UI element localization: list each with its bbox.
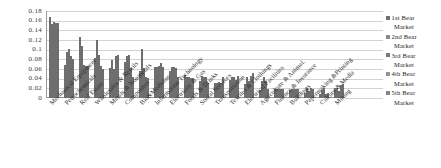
legend-label-line1: 4th Bear (392, 69, 416, 78)
legend-swatch-icon (386, 35, 390, 39)
y-axis-tick-label: 0.04 (2, 75, 42, 82)
x-axis-labels: Mechanical EquipmentPetrochemicalsReal E… (0, 99, 441, 168)
y-axis-tick-label: 0.12 (2, 37, 42, 44)
bar-chart: 0.180.160.140.120.10.080.060.040.020 Mec… (0, 0, 441, 168)
legend-label-line2: Market (386, 22, 441, 31)
bar-group (47, 11, 62, 98)
legend-swatch-icon (386, 91, 390, 95)
legend-item[interactable]: 1st BearMarket (386, 13, 441, 32)
bar (57, 23, 59, 98)
y-axis-tick-label: 0.18 (2, 8, 42, 15)
y-axis-tick-label: 0.16 (2, 17, 42, 24)
legend-item[interactable]: 4th BearMarket (386, 69, 441, 88)
legend-swatch-icon (386, 16, 390, 20)
legend-label-line2: Market (386, 98, 441, 107)
legend-swatch-icon (386, 53, 390, 57)
legend-item[interactable]: 2nd BearMarket (386, 32, 441, 51)
legend-label-line2: Market (386, 60, 441, 69)
legend-label-line1: 2nd Bear (392, 32, 417, 41)
legend-item[interactable]: 3rd BearMarket (386, 51, 441, 70)
legend-swatch-icon (386, 72, 390, 76)
legend-label-line1: 5th Bear (392, 88, 416, 97)
bars-layer (47, 11, 345, 98)
y-axis-tick-label: 0.08 (2, 56, 42, 63)
legend-label-line1: 3rd Bear (392, 51, 416, 60)
chart-legend: 1st BearMarket2nd BearMarket3rd BearMark… (386, 13, 441, 107)
y-axis-tick-label: 0.02 (2, 85, 42, 92)
y-axis-tick-label: 0.1 (2, 46, 42, 53)
legend-item[interactable]: 5th BearMarket (386, 88, 441, 107)
legend-label-line2: Market (386, 41, 441, 50)
y-axis-tick-label: 0.14 (2, 27, 42, 34)
legend-label-line2: Market (386, 79, 441, 88)
legend-label-line1: 1st Bear (392, 13, 415, 22)
y-axis-tick-label: 0.06 (2, 66, 42, 73)
